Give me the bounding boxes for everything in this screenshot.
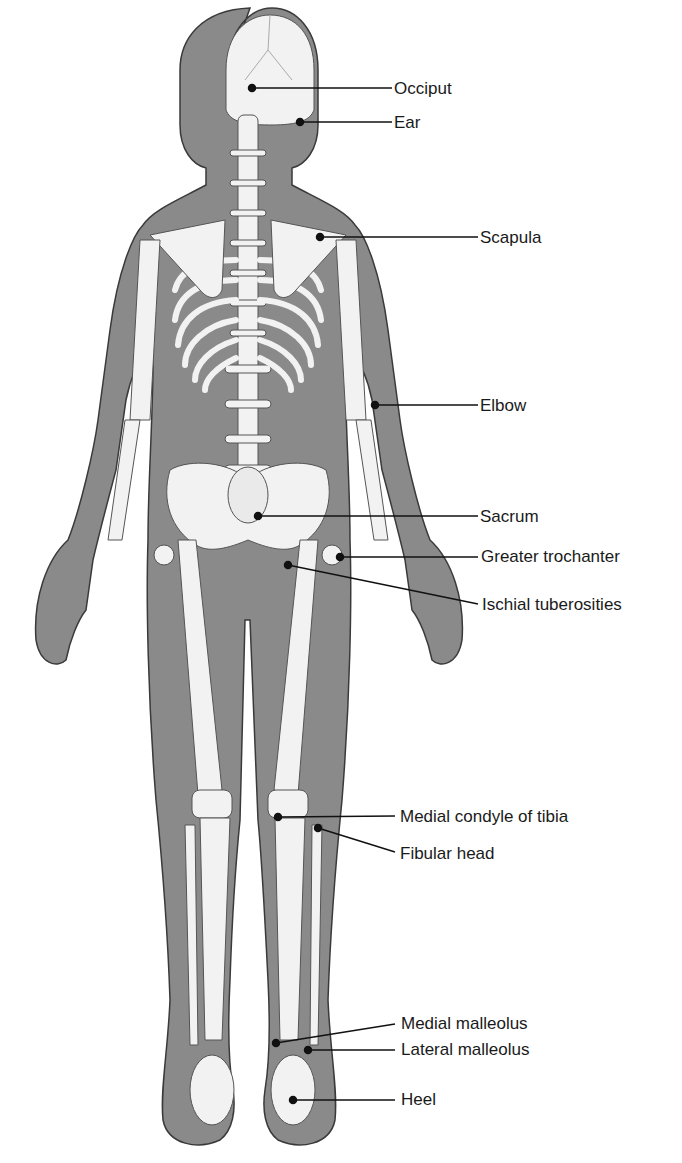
- label-heel: Heel: [401, 1091, 436, 1108]
- label-greater-trochanter: Greater trochanter: [481, 548, 620, 565]
- label-medial-condyle-of-tibia: Medial condyle of tibia: [400, 808, 568, 825]
- label-elbow: Elbow: [480, 397, 526, 414]
- label-medial-malleolus: Medial malleolus: [401, 1015, 528, 1032]
- label-occiput: Occiput: [394, 80, 452, 97]
- label-fibular-head: Fibular head: [400, 845, 495, 862]
- label-ischial-tuberosities: Ischial tuberosities: [482, 596, 622, 613]
- body-illustration: [0, 0, 682, 1163]
- label-lateral-malleolus: Lateral malleolus: [401, 1041, 530, 1058]
- anatomy-figure: Occiput Ear Scapula Elbow Sacrum Greater…: [0, 0, 682, 1163]
- label-ear: Ear: [394, 114, 420, 131]
- label-sacrum: Sacrum: [480, 508, 539, 525]
- label-scapula: Scapula: [480, 229, 541, 246]
